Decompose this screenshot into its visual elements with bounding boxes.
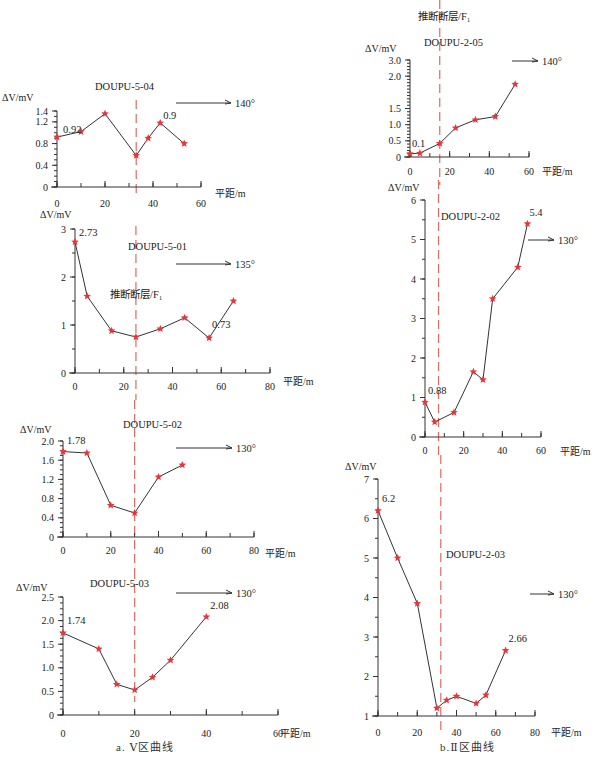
y-tick-label: 2 [61, 272, 66, 283]
data-point-marker [83, 292, 91, 299]
y-tick-label: 1.0 [389, 119, 402, 130]
data-label: 2.66 [509, 633, 527, 644]
chart-title: DOUPU-5-03 [90, 578, 149, 589]
y-tick-label: 1.0 [42, 662, 55, 673]
chart-doupu-5-02: 00.40.81.21.62.0020406080平距/mΔV/mVDOUPU-… [20, 400, 296, 570]
y-tick-label: 3 [364, 632, 369, 643]
x-tick-label: 60 [201, 545, 211, 556]
data-point-marker [131, 686, 139, 693]
y-tick-label: 1.6 [42, 455, 55, 466]
y-tick-label: 0.5 [389, 135, 402, 146]
data-label: 5.4 [529, 207, 543, 218]
y-tick-label: 5 [411, 234, 416, 245]
chart-doupu-5-03: 00.51.01.52.02.50204060平距/mΔV/mVDOUPU-5-… [16, 570, 311, 739]
x-tick-label: 60 [536, 445, 546, 456]
x-tick-label: 60 [524, 166, 534, 177]
data-point-marker [472, 116, 480, 123]
x-tick-label: 40 [484, 166, 494, 177]
data-point-marker [230, 297, 238, 304]
y-tick-label: 0 [61, 368, 66, 379]
x-tick-label: 0 [61, 728, 66, 739]
data-label: 0.92 [63, 124, 81, 135]
y-tick-label: 3.0 [389, 55, 402, 66]
data-label: 1.78 [67, 435, 85, 446]
y-tick-label: 1 [411, 392, 416, 403]
subcaption-zone-ii: b.Ⅱ区曲线 [440, 738, 495, 754]
x-tick-label: 60 [216, 381, 226, 392]
y-axis-label: ΔV/mV [365, 43, 397, 54]
data-label: 0.73 [212, 319, 230, 330]
chart-doupu-5-04: 00.40.81.21.40204060平距/mΔV/mVDOUPU-5-041… [2, 81, 255, 209]
x-tick-label: 20 [119, 381, 129, 392]
y-tick-label: 2.0 [42, 615, 55, 626]
chart-title: DOUPU-2-05 [424, 37, 483, 48]
y-axis-label: ΔV/mV [40, 209, 72, 220]
data-point-marker [113, 680, 121, 687]
direction-label: 130° [236, 588, 256, 599]
data-series-line [378, 511, 506, 708]
y-tick-label: 0.8 [36, 138, 49, 149]
data-series-line [410, 84, 515, 154]
data-label: 2.08 [210, 600, 228, 611]
y-axis-label: ΔV/mV [2, 92, 34, 103]
x-tick-label: 60 [491, 727, 501, 738]
chart-title: DOUPU-2-02 [441, 211, 500, 222]
data-point-marker [450, 409, 458, 416]
data-label: 0.1 [412, 138, 425, 149]
data-point-marker [502, 646, 510, 653]
y-tick-label: 1 [61, 320, 66, 331]
data-point-marker [492, 113, 500, 120]
data-point-marker [453, 692, 461, 699]
y-tick-label: 7 [364, 474, 369, 485]
x-tick-label: 40 [452, 727, 462, 738]
data-point-marker [179, 461, 187, 468]
y-tick-label: 2.5 [42, 592, 55, 603]
y-tick-label: 0 [43, 182, 48, 193]
x-tick-label: 0 [408, 166, 413, 177]
x-axis-label: 平距/m [215, 188, 246, 199]
y-axis-label: ΔV/mV [388, 182, 420, 193]
direction-label: 140° [235, 98, 255, 109]
x-tick-label: 40 [154, 545, 164, 556]
data-point-marker [157, 325, 165, 332]
data-label: 1.74 [67, 615, 86, 626]
chart-title: DOUPU-5-04 [95, 81, 155, 92]
data-point-marker [155, 473, 163, 480]
y-tick-label: 1.4 [36, 106, 49, 117]
chart-doupu-2-02: 01234560204060平距/mΔV/mVDOUPU-2-02130°0.8… [388, 180, 591, 460]
direction-label: 140° [542, 56, 562, 67]
data-point-marker [205, 334, 213, 341]
data-point-marker [433, 704, 441, 711]
x-tick-label: 80 [249, 545, 259, 556]
direction-label: 130° [558, 235, 578, 246]
direction-label: 130° [558, 589, 578, 600]
data-label: 2.73 [79, 227, 97, 238]
direction-label: 135° [235, 259, 255, 270]
figure-canvas: 00.40.81.21.40204060平距/mΔV/mVDOUPU-5-041… [0, 0, 597, 775]
fault-label: 推断断层/F₁ [418, 10, 470, 22]
chart-title: DOUPU-5-02 [123, 419, 182, 430]
y-tick-label: 4 [364, 592, 369, 603]
y-tick-label: 2 [364, 671, 369, 682]
x-axis-label: 平距/m [265, 548, 296, 559]
y-tick-label: 1.5 [389, 103, 402, 114]
x-axis-label: 平距/m [280, 728, 311, 739]
x-tick-label: 40 [201, 728, 211, 739]
x-tick-label: 0 [55, 198, 60, 209]
x-tick-label: 0 [376, 727, 381, 738]
data-series-line [63, 452, 182, 513]
subcaption-zone-v: a. Ⅴ区曲线 [116, 738, 174, 754]
y-tick-label: 0 [49, 710, 54, 721]
chart-doupu-2-05: 推断断层/F₁00.51.01.52.03.00204060平距/mΔV/mVD… [365, 0, 573, 185]
x-tick-label: 0 [61, 545, 66, 556]
y-tick-label: 0 [396, 152, 401, 163]
fault-label: 推断断层/F₁ [110, 288, 162, 300]
x-tick-label: 0 [73, 381, 78, 392]
y-tick-label: 0 [411, 432, 416, 443]
y-tick-label: 1.2 [42, 474, 55, 485]
y-tick-label: 6 [364, 513, 369, 524]
direction-label: 130° [236, 443, 256, 454]
x-tick-label: 40 [148, 198, 158, 209]
y-tick-label: 1 [364, 711, 369, 722]
data-point-marker [472, 699, 480, 706]
